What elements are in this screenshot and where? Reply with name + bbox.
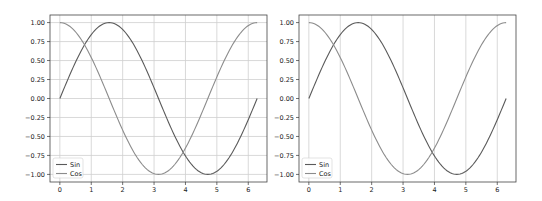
y-tick-label: −0.25 — [25, 114, 45, 122]
x-tick-label: 3 — [152, 186, 156, 194]
y-tick-label: 0.00 — [280, 95, 294, 103]
x-tick-label: 2 — [121, 186, 125, 194]
x-tick-label: 4 — [183, 186, 187, 194]
legend-label-sin: Sin — [70, 161, 80, 169]
legend-label-cos: Cos — [70, 170, 83, 178]
plot-1: 01234561.000.750.500.250.00−0.25−0.50−0.… — [25, 15, 267, 194]
x-axis-ticks: 0123456 — [58, 182, 251, 194]
series-sin-line — [309, 23, 506, 175]
y-tick-label: 0.25 — [280, 76, 294, 84]
y-axis-ticks: 1.000.750.500.250.00−0.25−0.50−0.75−1.00 — [25, 19, 50, 179]
y-tick-label: 0.75 — [280, 38, 294, 46]
y-tick-label: 1.00 — [280, 19, 294, 27]
y-tick-label: 0.75 — [31, 38, 45, 46]
x-tick-label: 6 — [246, 186, 250, 194]
x-tick-label: 6 — [495, 186, 499, 194]
y-tick-label: 0.25 — [31, 76, 45, 84]
x-axis-ticks: 0123456 — [307, 182, 500, 194]
y-tick-label: −0.50 — [25, 133, 45, 141]
y-tick-label: 0.00 — [31, 95, 45, 103]
y-tick-label: −0.75 — [274, 152, 294, 160]
x-tick-label: 0 — [307, 186, 311, 194]
legend: SinCos — [53, 158, 83, 178]
gridlines — [309, 15, 497, 182]
y-tick-label: 0.50 — [280, 57, 294, 65]
x-tick-label: 1 — [338, 186, 342, 194]
x-tick-label: 5 — [215, 186, 219, 194]
y-tick-label: −1.00 — [25, 171, 45, 179]
y-axis-ticks: 1.000.750.500.250.00−0.25−0.50−0.75−1.00 — [274, 19, 299, 179]
x-tick-label: 4 — [432, 186, 436, 194]
legend-label-sin: Sin — [319, 161, 329, 169]
plot-2: 01234561.000.750.500.250.00−0.25−0.50−0.… — [274, 15, 516, 194]
y-tick-label: −1.00 — [274, 171, 294, 179]
y-tick-label: 1.00 — [31, 19, 45, 27]
y-tick-label: 0.50 — [31, 57, 45, 65]
x-tick-label: 0 — [58, 186, 62, 194]
y-tick-label: −0.50 — [274, 133, 294, 141]
x-tick-label: 5 — [464, 186, 468, 194]
y-tick-label: −0.25 — [274, 114, 294, 122]
x-tick-label: 3 — [401, 186, 405, 194]
y-tick-label: −0.75 — [25, 152, 45, 160]
legend: SinCos — [302, 158, 332, 178]
figure: 01234561.000.750.500.250.00−0.25−0.50−0.… — [0, 0, 542, 201]
x-tick-label: 1 — [89, 186, 93, 194]
x-tick-label: 2 — [370, 186, 374, 194]
legend-label-cos: Cos — [319, 170, 332, 178]
